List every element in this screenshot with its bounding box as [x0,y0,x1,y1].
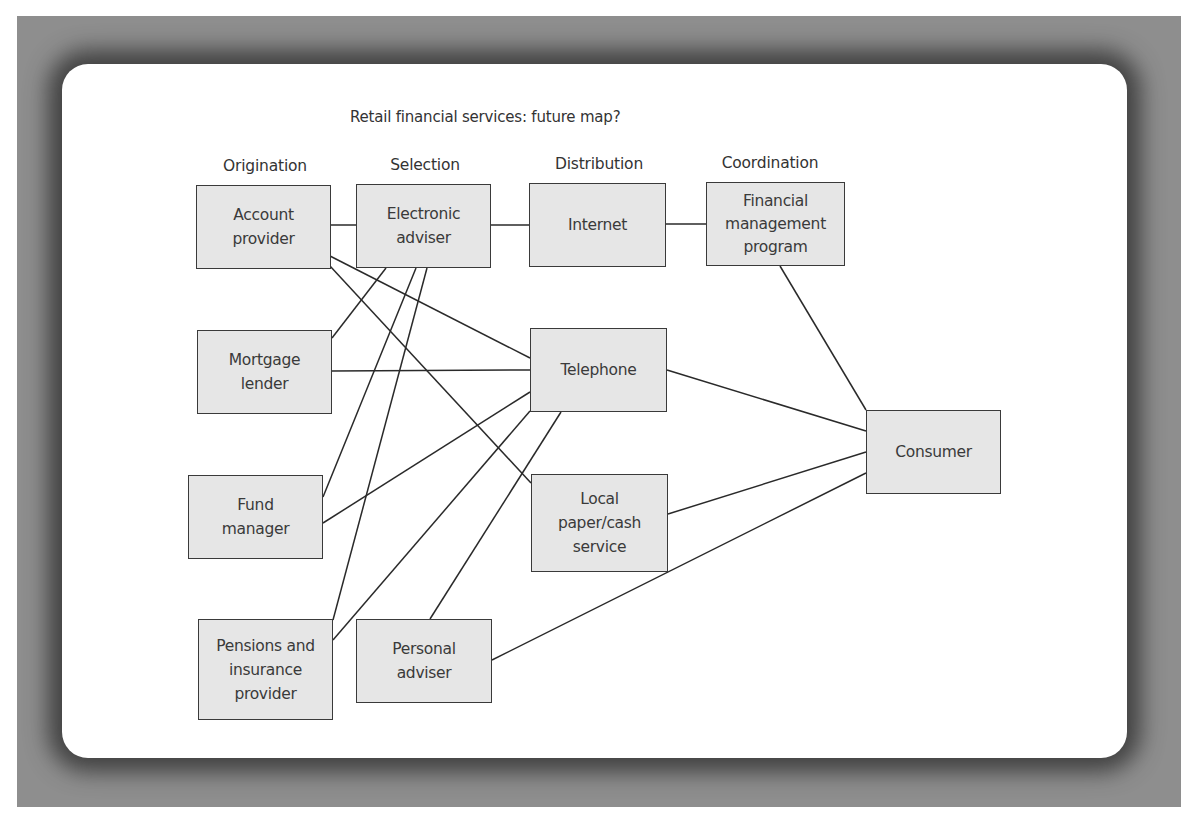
edge-financial_management_program-to-consumer [780,266,866,410]
node-local-paper-cash-service: Local paper/cash service [531,474,668,572]
column-header-coordination: Coordination [722,154,819,172]
node-consumer: Consumer [866,410,1001,494]
node-personal-adviser: Personal adviser [356,619,492,703]
node-telephone: Telephone [530,328,667,412]
edge-account_provider-to-telephone [330,256,530,358]
edge-telephone-to-consumer [667,370,866,431]
edge-local_paper_cash_service-to-consumer [668,452,866,514]
column-header-origination: Origination [223,157,307,175]
node-mortgage-lender: Mortgage lender [197,330,332,414]
column-header-selection: Selection [390,156,460,174]
edge-fund_manager-to-telephone [323,392,530,523]
edge-pensions_insurance_provider-to-telephone [333,411,530,640]
edge-mortgage_lender-to-telephone [332,370,530,371]
node-internet: Internet [529,183,666,267]
diagram-title: Retail financial services: future map? [350,108,620,126]
node-fund-manager: Fund manager [188,475,323,559]
edge-account_provider-to-local_paper_cash_service [330,266,531,483]
node-account-provider: Account provider [196,185,331,269]
column-header-distribution: Distribution [555,155,643,173]
edge-electronic_adviser-to-fund_manager [323,268,416,497]
edge-electronic_adviser-to-mortgage_lender [332,268,386,338]
node-financial-management-program: Financial management program [706,182,845,266]
node-pensions-insurance-provider: Pensions and insurance provider [198,619,333,720]
node-electronic-adviser: Electronic adviser [356,184,491,268]
